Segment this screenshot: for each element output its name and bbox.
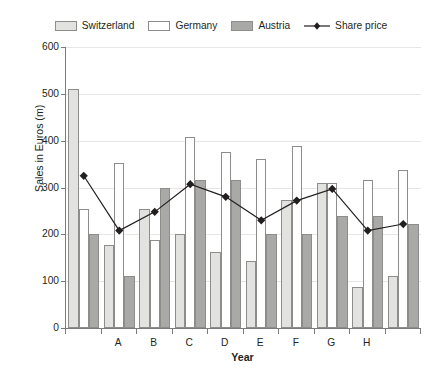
x-axis-tick-mark	[136, 329, 137, 334]
y-axis-tick-label: 500	[42, 89, 59, 99]
y-axis-tick-label: 300	[42, 183, 59, 193]
x-axis-tick-label-D: D	[207, 338, 243, 348]
x-axis-tick-mark	[207, 329, 208, 334]
y-axis-tick-label: 100	[42, 276, 59, 286]
share-price-marker-F	[293, 197, 301, 205]
share-price-line	[84, 176, 404, 231]
x-axis-label: Year	[65, 352, 420, 363]
x-axis-tick-label-H: H	[349, 338, 385, 348]
x-axis-tick-label-B: B	[136, 338, 172, 348]
share-price-marker-g10	[399, 220, 407, 228]
x-axis-tick-mark	[65, 329, 66, 334]
x-axis-tick-mark	[172, 329, 173, 334]
x-axis-tick-label-F: F	[278, 338, 314, 348]
x-axis-tick-label-A: A	[101, 338, 137, 348]
chart-legend: Switzerland Germany Austria Share price	[0, 16, 442, 36]
x-axis-tick-label-C: C	[172, 338, 208, 348]
share-price-marker-E	[257, 216, 265, 224]
legend-line-marker-icon-share-price	[304, 21, 330, 31]
y-axis-tick-label: 400	[42, 136, 59, 146]
legend-item-austria: Austria	[231, 21, 290, 31]
share-price-marker-g1	[80, 172, 88, 180]
plot-area	[65, 47, 421, 329]
x-axis-tick-mark	[385, 329, 386, 334]
x-axis-tick-label-G: G	[314, 338, 350, 348]
x-axis-tick-mark	[349, 329, 350, 334]
share-price-marker-A	[115, 226, 123, 234]
share-price-line-svg	[66, 47, 421, 328]
x-axis-tick-label-E: E	[243, 338, 279, 348]
x-axis-tick-mark	[101, 329, 102, 334]
chart-figure: Switzerland Germany Austria Share price …	[0, 0, 442, 379]
y-axis-tick-label: 600	[42, 42, 59, 52]
y-axis-tick-label: 200	[42, 229, 59, 239]
legend-label-switzerland: Switzerland	[82, 21, 135, 31]
legend-swatch-icon-austria	[231, 21, 253, 31]
y-axis-label-wrap: Sales in Euros (m)	[0, 47, 1, 328]
share-price-marker-D	[222, 193, 230, 201]
legend-label-share-price: Share price	[335, 21, 387, 31]
legend-item-germany: Germany	[148, 21, 217, 31]
legend-label-austria: Austria	[258, 21, 290, 31]
x-axis-tick-mark	[420, 329, 421, 334]
x-axis-tick-mark	[243, 329, 244, 334]
legend-swatch-icon-switzerland	[55, 21, 77, 31]
legend-swatch-icon-germany	[148, 21, 170, 31]
x-axis-tick-mark	[314, 329, 315, 334]
legend-label-germany: Germany	[175, 21, 217, 31]
x-axis-tick-mark	[278, 329, 279, 334]
line-series-layer	[66, 47, 421, 328]
y-axis-tick-label: 0	[53, 323, 59, 333]
legend-item-switzerland: Switzerland	[55, 21, 135, 31]
legend-item-share-price: Share price	[304, 21, 387, 31]
